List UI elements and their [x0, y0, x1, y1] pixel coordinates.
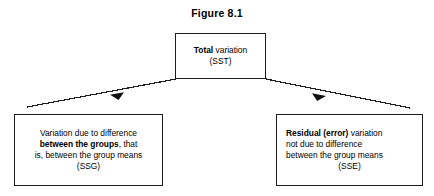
edge-total-to-sse-arrowhead — [312, 93, 326, 101]
node-ssg-line-2: between the groups, that — [40, 139, 138, 150]
figure-container: Figure 8.1 Total variation (SST) Variati… — [0, 0, 434, 196]
node-residual-error-variation: Residual (error) variation not due to di… — [276, 114, 423, 186]
node-sse-line-1: Residual (error) variation — [286, 128, 382, 139]
node-ssg-line-2-rest: , that — [119, 139, 138, 149]
node-between-groups-variation: Variation due to difference between the … — [14, 114, 163, 186]
node-total-line-2: (SST) — [210, 56, 232, 67]
node-sse-line-1-bold: Residual (error) — [286, 128, 348, 138]
node-sse-line-2: not due to difference — [286, 139, 362, 150]
node-ssg-line-2-bold: between the groups — [40, 139, 119, 149]
node-total-line-1-rest: variation — [213, 45, 247, 55]
edge-total-to-ssg-arrowhead — [110, 92, 124, 100]
node-total-line-1-bold: Total — [194, 45, 213, 55]
edge-total-to-sse-line — [266, 79, 410, 108]
node-sse-line-3: between the group means — [286, 150, 383, 161]
node-ssg-line-4: (SSG) — [77, 161, 100, 172]
edge-total-to-sse — [266, 79, 410, 108]
edge-total-to-ssg — [27, 79, 176, 107]
node-total-variation: Total variation (SST) — [175, 33, 266, 79]
node-sse-line-4: (SSE) — [286, 161, 413, 172]
node-ssg-line-1: Variation due to difference — [40, 128, 137, 139]
node-ssg-line-3: is, between the group means — [35, 150, 143, 161]
node-sse-line-1-rest: variation — [348, 128, 382, 138]
edge-total-to-ssg-line — [27, 79, 176, 107]
node-total-line-1: Total variation — [194, 45, 247, 56]
